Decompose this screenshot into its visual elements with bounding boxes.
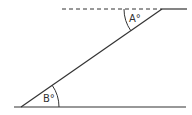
angle-b-label: B° <box>43 93 55 104</box>
angle-a-label: A° <box>129 13 141 24</box>
diagram-canvas: A° B° <box>0 0 192 115</box>
geometry-figure: A° B° <box>0 0 192 115</box>
